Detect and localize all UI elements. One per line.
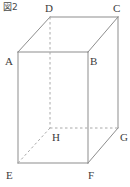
edge-cb: [88, 17, 118, 52]
vertex-label-e: E: [6, 170, 13, 181]
vertex-label-d: D: [45, 3, 53, 14]
solid-edge-group: [18, 17, 118, 163]
vertex-label-c: C: [113, 3, 120, 14]
figure-container: 図2 ABCDEFGH: [0, 0, 130, 187]
prism-diagram: [0, 0, 130, 187]
edge-ad: [18, 17, 50, 52]
vertex-label-g: G: [120, 132, 128, 143]
hidden-edge-he: [18, 128, 50, 163]
figure-caption: 図2: [3, 2, 18, 13]
edge-fg: [88, 128, 118, 163]
hidden-edge-group: [18, 17, 118, 163]
vertex-label-h: H: [52, 132, 60, 143]
vertex-label-f: F: [88, 170, 94, 181]
vertex-label-b: B: [90, 56, 97, 67]
vertex-label-a: A: [5, 56, 13, 67]
